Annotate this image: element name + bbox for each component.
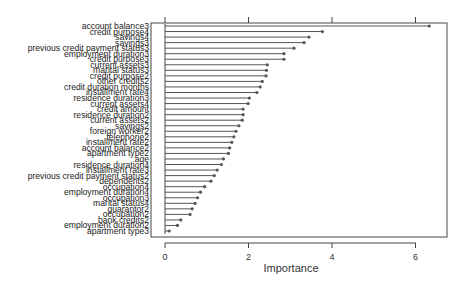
category-labels: account balance3credit purpose4savings4s… [28,21,150,236]
x-axis-ticks: 0246 [162,243,418,262]
bar-endpoint-dot [266,63,269,66]
bar-endpoint-dot [230,141,233,144]
variable-importance-chart: account balance3credit purpose4savings4s… [0,0,474,286]
x-tick-label: 6 [413,252,418,262]
top-axis-ticks [165,17,416,23]
bar-endpoint-dot [261,80,264,83]
bar-endpoint-dot [234,130,237,133]
bar-endpoint-dot [196,196,199,199]
bar-endpoint-dot [282,52,285,55]
bar-endpoint-dot [176,224,179,227]
bar-endpoint-dot [193,202,196,205]
bar-endpoint-dot [213,174,216,177]
bar-endpoint-dot [168,229,171,232]
bar-endpoint-dot [220,163,223,166]
bar-endpoint-dot [246,102,249,105]
bar-endpoint-dot [232,135,235,138]
x-tick-label: 2 [246,252,251,262]
bar-endpoint-dot [321,30,324,33]
bar-endpoint-dot [199,191,202,194]
bar-endpoint-dot [203,185,206,188]
bars [165,24,431,234]
bar-endpoint-dot [255,91,258,94]
bar-endpoint-dot [228,146,231,149]
bar-endpoint-dot [264,74,267,77]
bar-endpoint-dot [259,85,262,88]
bar-endpoint-dot [227,152,230,155]
x-axis-label: Importance [263,262,318,274]
bar-endpoint-dot [248,96,251,99]
bar-endpoint-dot [428,24,431,27]
bar-endpoint-dot [222,157,225,160]
bar-endpoint-dot [241,113,244,116]
x-tick-label: 0 [162,252,167,262]
bar-endpoint-dot [307,35,310,38]
bar-endpoint-dot [282,58,285,61]
bar-endpoint-dot [216,168,219,171]
bar-endpoint-dot [179,218,182,221]
plot-frame [151,23,447,237]
bar-endpoint-dot [292,47,295,50]
bar-endpoint-dot [209,180,212,183]
bar-endpoint-dot [302,41,305,44]
bar-endpoint-dot [188,213,191,216]
bar-endpoint-dot [265,69,268,72]
bar-endpoint-dot [241,119,244,122]
bar-endpoint-dot [241,108,244,111]
category-label: apartment type3 [87,226,149,236]
bar-endpoint-dot [237,124,240,127]
x-tick-label: 4 [329,252,334,262]
bar-endpoint-dot [191,207,194,210]
